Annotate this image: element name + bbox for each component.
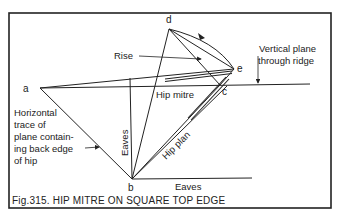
eaves-horizontal-line [132,178,252,179]
eaves-vertical-line [130,78,132,179]
vertical-plane-label-2: through ridge [258,55,314,66]
horizontal-trace-label-1: Horizontal [14,107,57,118]
rise-label: Rise [114,50,133,61]
eaves-vertical-label: Eaves [119,129,130,156]
point-label-b: b [128,182,134,193]
ridge-plane-line [40,84,310,88]
vertical-plane-label-1: Vertical plane [259,43,316,54]
point-label-c: c [222,86,227,97]
horizontal-trace-label-4: ing back edge [14,143,73,154]
line-d-e [169,29,234,69]
rise-pointer [139,56,201,59]
horizontal-trace-pointer [85,147,99,148]
hip-mitre-label: Hip mitre [156,89,194,100]
point-label-a: a [23,83,29,94]
hip-mitre-diagram: a b c d e Rise Vertical plane through ri… [0,0,337,219]
horizontal-trace-label-3: plane contain- [14,131,74,142]
point-label-d: d [166,14,172,25]
point-label-e: e [237,63,243,74]
figure-caption: Fig.315. HIP MITRE ON SQUARE TOP EDGE [12,195,226,206]
eaves-horizontal-label: Eaves [175,181,202,192]
horizontal-trace-label-5: of hip [14,155,37,166]
hip-plan-label: Hip plan [160,129,192,161]
horizontal-trace-label-2: trace of [14,119,46,130]
